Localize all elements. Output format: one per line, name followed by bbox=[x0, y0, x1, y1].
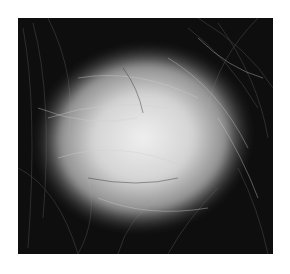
scalp-photo bbox=[18, 18, 273, 254]
scalp-image bbox=[18, 18, 273, 254]
